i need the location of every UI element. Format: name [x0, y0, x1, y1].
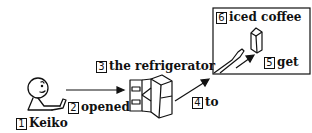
- number-box: 4: [192, 97, 203, 109]
- label-text: to: [205, 96, 219, 109]
- number-box: 5: [264, 57, 275, 69]
- label-get: 5 get: [264, 56, 299, 69]
- arrow-get-icon: [236, 55, 254, 68]
- label-text: get: [277, 56, 299, 69]
- hand-icon: [214, 49, 244, 73]
- label-text: the refrigerator: [109, 60, 215, 73]
- refrigerator-icon: [130, 75, 172, 118]
- label-text: iced coffee: [229, 11, 302, 24]
- number-box: 3: [96, 61, 107, 73]
- label-keiko: 1 Keiko: [16, 117, 68, 130]
- person-icon: [28, 78, 66, 110]
- label-iced-coffee: 6 iced coffee: [216, 11, 302, 24]
- number-box: 1: [16, 118, 27, 130]
- number-box: 2: [68, 102, 79, 114]
- label-opened: 2 opened: [68, 101, 130, 114]
- label-text: opened: [81, 101, 130, 114]
- label-text: Keiko: [29, 117, 68, 130]
- coffee-carton-icon: [251, 28, 262, 53]
- label-to: 4 to: [192, 96, 219, 109]
- label-refrigerator: 3 the refrigerator: [96, 60, 215, 73]
- number-box: 6: [216, 12, 227, 24]
- arrow-opened-icon: [66, 87, 124, 93]
